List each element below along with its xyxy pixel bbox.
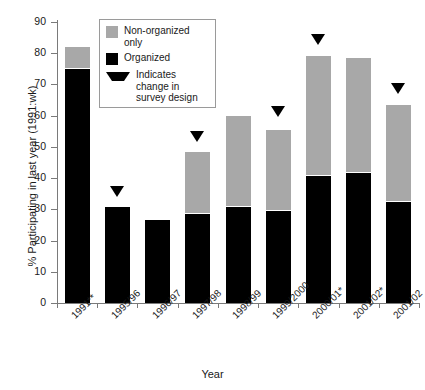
y-axis-tick: [51, 147, 57, 148]
x-axis-tick: [258, 303, 259, 308]
bar-segment-non-organized: [306, 56, 331, 174]
x-axis-tick: [298, 303, 299, 308]
x-axis-title: Year: [0, 368, 425, 380]
y-axis-tick: [51, 84, 57, 85]
x-axis-tick: [218, 303, 219, 308]
bar-segment-organized: [346, 173, 371, 304]
down-triangle-marker-icon: [271, 106, 285, 117]
bar-segment-non-organized: [386, 105, 411, 201]
y-axis-tick-label: 0: [0, 297, 46, 307]
down-triangle-marker-icon: [106, 72, 130, 81]
bar-column: [65, 22, 90, 303]
y-axis-tick-label: 50: [0, 141, 46, 151]
y-axis-tick: [51, 209, 57, 210]
y-axis-tick: [51, 178, 57, 179]
x-axis-tick: [137, 303, 138, 308]
legend-item-label: Indicates change in survey design: [136, 69, 210, 104]
bar-column: [346, 22, 371, 303]
black-square-swatch-icon: [106, 53, 118, 65]
y-axis-tick: [51, 22, 57, 23]
y-axis-tick: [51, 272, 57, 273]
down-triangle-marker-icon: [311, 34, 325, 45]
legend-item-organized: Organized: [106, 52, 210, 65]
y-axis-tick-label: 10: [0, 266, 46, 276]
bar-segment-organized: [306, 176, 331, 303]
bar-segment-organized: [185, 214, 210, 303]
y-axis-tick: [51, 241, 57, 242]
x-axis-tick: [339, 303, 340, 308]
legend: Non-organized only Organized Indicates c…: [99, 19, 216, 108]
legend-item-survey-change: Indicates change in survey design: [106, 69, 210, 104]
bar-column: [386, 22, 411, 303]
bar-segment-non-organized: [185, 152, 210, 213]
bar-column: [226, 22, 251, 303]
x-axis-tick: [97, 303, 98, 308]
bar-segment-organized: [65, 69, 90, 303]
x-axis-tick: [57, 303, 58, 308]
x-axis-tick: [419, 303, 420, 308]
y-axis-tick-label: 80: [0, 47, 46, 57]
down-triangle-marker-icon: [190, 131, 204, 142]
y-axis-line: [57, 20, 58, 305]
bar-chart: 0102030405060708090 1991**1995/961996/97…: [0, 0, 425, 390]
legend-item-label: Organized: [124, 52, 170, 64]
x-axis-tick: [379, 303, 380, 308]
y-axis-tick-label: 20: [0, 235, 46, 245]
bar-column: [266, 22, 291, 303]
y-axis-tick-label: 70: [0, 78, 46, 88]
y-axis-tick-label: 60: [0, 110, 46, 120]
y-axis-tick-label: 30: [0, 203, 46, 213]
legend-item-non-organized: Non-organized only: [106, 25, 210, 48]
bar-segment-organized: [145, 220, 170, 303]
bar-segment-organized: [266, 211, 291, 303]
y-axis-tick: [51, 116, 57, 117]
bar-segment-non-organized: [266, 130, 291, 210]
down-triangle-marker-icon: [110, 186, 124, 197]
bar-segment-organized: [105, 207, 130, 303]
down-triangle-marker-icon: [391, 83, 405, 94]
bar-segment-organized: [386, 202, 411, 303]
bar-segment-non-organized: [346, 58, 371, 172]
legend-item-label: Non-organized only: [124, 25, 210, 48]
y-axis-tick-label: 90: [0, 16, 46, 26]
bar-segment-organized: [226, 207, 251, 303]
bar-segment-non-organized: [226, 116, 251, 206]
y-axis-tick-label: 40: [0, 172, 46, 182]
y-axis-tick: [51, 53, 57, 54]
bar-segment-non-organized: [65, 47, 90, 68]
x-axis-tick: [178, 303, 179, 308]
bar-column: [306, 22, 331, 303]
y-axis-title: % Participating in last year (1991:wk): [26, 51, 38, 301]
gray-square-swatch-icon: [106, 26, 118, 38]
